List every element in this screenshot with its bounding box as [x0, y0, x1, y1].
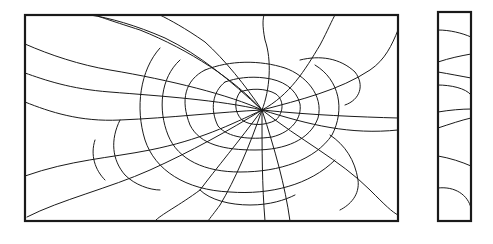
edge-crack	[438, 30, 471, 37]
ring-crack	[93, 140, 105, 180]
radial-crack	[25, 102, 262, 120]
radial-crack	[262, 110, 398, 118]
edge-crack	[438, 85, 471, 95]
figure-stage: Shattered glass pane — front view and ed…	[0, 0, 493, 244]
radial-crack	[155, 110, 262, 221]
edge-crack	[438, 72, 471, 78]
radial-crack	[25, 44, 262, 110]
edge-crack	[438, 118, 471, 128]
ring-crack	[330, 135, 358, 210]
radial-crack	[262, 110, 398, 215]
radial-crack	[262, 30, 398, 110]
shattered-glass-diagram	[0, 0, 493, 244]
radial-crack	[25, 110, 262, 176]
radial-crack	[262, 15, 269, 110]
ring-crack	[300, 58, 360, 105]
radial-crack	[262, 110, 398, 131]
edge-crack	[438, 188, 471, 208]
front-pane-cracks	[25, 15, 398, 221]
edge-crack	[438, 156, 471, 166]
edge-crack	[438, 109, 471, 112]
radial-crack	[262, 15, 335, 110]
edge-crack	[438, 54, 471, 62]
edge-pane-cracks	[438, 30, 471, 208]
